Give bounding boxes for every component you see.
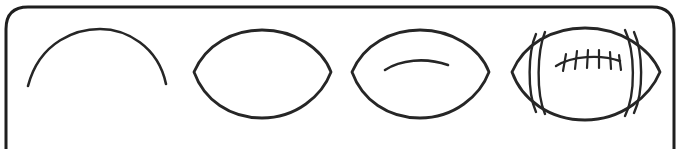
- lace-stitch: [587, 50, 588, 68]
- lens-outline-stroke: [352, 30, 489, 118]
- lace-line-arc: [385, 60, 448, 70]
- end-stripe-right-line: [625, 30, 633, 116]
- arc-stroke: [28, 29, 166, 86]
- step-2-lens-outline: [194, 30, 331, 118]
- lens-outline-stroke: [194, 30, 331, 118]
- lace-stitch: [619, 55, 621, 70]
- step-1-top-arc: [28, 29, 166, 86]
- lace-stitch: [575, 51, 577, 69]
- end-stripe-left-line: [539, 32, 545, 114]
- lace-stitch: [610, 52, 611, 69]
- drawing-sheet: [0, 0, 681, 149]
- step-4-finished-football: [512, 28, 660, 120]
- illustration-canvas: [0, 0, 681, 149]
- step-3-lens-with-lace-line: [352, 30, 489, 118]
- lace-stitch: [563, 54, 566, 71]
